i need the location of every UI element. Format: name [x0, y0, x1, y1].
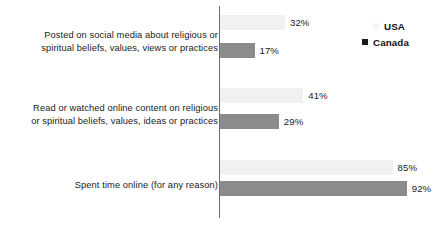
bar-value-usa-0: 32%	[290, 15, 310, 30]
category-label-0-line-1: spiritual beliefs, values, views or prac…	[8, 42, 218, 55]
bar-value-canada-2: 92%	[412, 181, 432, 196]
legend-label-usa: USA	[384, 21, 405, 32]
legend: USA Canada	[362, 18, 438, 50]
legend-item-usa[interactable]: USA	[362, 18, 438, 34]
category-label-1-line-0: Read or watched online content on religi…	[8, 102, 218, 115]
category-label-2-line-0: Spent time online (for any reason)	[8, 179, 218, 192]
bar-usa-0	[220, 15, 285, 30]
bar-canada-0	[220, 43, 255, 58]
bar-value-canada-1: 29%	[284, 114, 304, 129]
category-label-1: Read or watched online content on religi…	[8, 102, 218, 127]
bar-value-usa-1: 41%	[308, 88, 328, 103]
legend-swatch-usa-icon	[373, 23, 379, 29]
category-label-0: Posted on social media about religious o…	[8, 29, 218, 54]
bar-value-usa-2: 85%	[398, 160, 418, 175]
bar-canada-1	[220, 114, 279, 129]
bar-value-canada-0: 17%	[260, 43, 280, 58]
bar-usa-1	[220, 88, 303, 103]
legend-label-canada: Canada	[373, 37, 409, 48]
legend-item-canada[interactable]: Canada	[362, 34, 438, 50]
bar-usa-2	[220, 160, 393, 175]
category-label-0-line-0: Posted on social media about religious o…	[8, 29, 218, 42]
legend-swatch-canada-icon	[362, 39, 368, 45]
bar-canada-2	[220, 181, 407, 196]
category-label-1-line-1: or spiritual beliefs, values, ideas or p…	[8, 115, 218, 128]
category-label-2: Spent time online (for any reason)	[8, 179, 218, 192]
grouped-bar-chart: Posted on social media about religious o…	[0, 0, 442, 225]
